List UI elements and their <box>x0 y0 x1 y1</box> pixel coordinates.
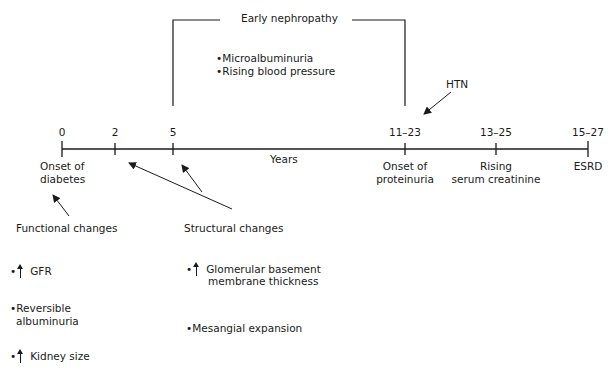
functional-changes-heading: Functional changes <box>16 222 117 235</box>
functional-item-kidney-size: Kidney size <box>10 349 90 363</box>
tick-label-onset-diabetes: Onset of diabetes <box>40 160 85 186</box>
functional-item-gfr: GFR <box>10 264 52 278</box>
structural-item-gbm: Glomerular basement <box>186 262 321 276</box>
item-text: Kidney size <box>30 350 90 362</box>
functional-arrow <box>53 195 69 216</box>
functional-item-albuminuria: Reversible <box>10 302 71 315</box>
early-nephropathy-title: Early nephropathy <box>241 12 338 25</box>
bracket-item-text: Microalbuminuria <box>222 52 313 64</box>
tick-value-15-27: 15–27 <box>563 126 612 139</box>
tick-value-5: 5 <box>163 126 183 139</box>
bracket-item-text: Rising blood pressure <box>222 65 335 77</box>
functional-item-albuminuria-line2: albuminuria <box>16 315 79 328</box>
label-line: Onset of <box>365 160 445 173</box>
item-text: Glomerular basement <box>206 263 321 275</box>
tick-value-11-23: 11–23 <box>380 126 430 139</box>
tick-value-2: 2 <box>105 126 125 139</box>
label-line: serum creatinine <box>446 173 546 186</box>
timeline-axis <box>62 141 588 157</box>
label-line: Rising <box>446 160 546 173</box>
tick-value-13-25: 13–25 <box>471 126 521 139</box>
label-line: Onset of <box>40 160 85 173</box>
htn-label: HTN <box>446 78 468 91</box>
structural-arrow-2yr <box>129 163 232 209</box>
structural-item-gbm-line2: membrane thickness <box>208 275 318 288</box>
structural-changes-heading: Structural changes <box>184 222 283 235</box>
arrow-up-icon <box>193 262 200 276</box>
item-text: GFR <box>30 265 51 277</box>
arrow-up-icon <box>17 264 24 278</box>
structural-item-mesangial: Mesangial expansion <box>186 322 302 335</box>
tick-value-0: 0 <box>52 126 72 139</box>
bracket-item-microalbuminuria: Microalbuminuria <box>216 52 313 65</box>
item-text: Reversible <box>16 302 71 314</box>
tick-label-onset-proteinuria: Onset of proteinuria <box>365 160 445 186</box>
tick-label-rising-creatinine: Rising serum creatinine <box>446 160 546 186</box>
axis-label-years: Years <box>270 153 298 166</box>
label-line: proteinuria <box>365 173 445 186</box>
htn-arrow <box>424 92 451 114</box>
bracket-item-blood-pressure: Rising blood pressure <box>216 65 335 78</box>
tick-label-esrd: ESRD <box>563 160 612 173</box>
item-text: Mesangial expansion <box>192 322 302 334</box>
arrow-up-icon <box>17 349 24 363</box>
label-line: diabetes <box>40 173 85 186</box>
